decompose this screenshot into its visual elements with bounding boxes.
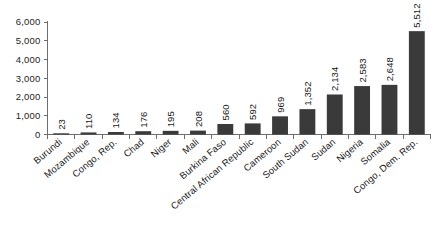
bar: [272, 116, 288, 134]
y-tick-label: 3,000: [16, 73, 41, 84]
bar-value-label: 592: [247, 104, 258, 120]
bar-value-label: 969: [275, 97, 286, 113]
bar: [108, 132, 124, 135]
bar: [217, 124, 233, 135]
bar: [53, 133, 69, 134]
bar: [299, 109, 315, 134]
bar-value-label: 176: [138, 112, 149, 128]
bar-value-label: 110: [83, 113, 94, 128]
bar-value-label: 208: [193, 111, 204, 127]
y-tick-label: 2,000: [16, 91, 41, 102]
y-tick-label: 6,000: [16, 16, 41, 27]
bar: [382, 85, 398, 135]
bar: [409, 31, 425, 134]
chart-canvas: 01,0002,0003,0004,0005,0006,000 23110134…: [0, 0, 441, 237]
bar-value-label: 23: [56, 119, 67, 130]
bar: [245, 123, 261, 134]
bar-value-label: 2,134: [329, 67, 340, 91]
y-tick-label: 1,000: [16, 110, 41, 121]
bar-value-label: 2,648: [384, 57, 395, 81]
bar: [354, 86, 370, 134]
bar: [135, 131, 151, 134]
bar-chart: 01,0002,0003,0004,0005,0006,000 23110134…: [0, 0, 441, 237]
y-tick-label: 5,000: [16, 35, 41, 46]
bar: [190, 131, 206, 135]
bar-value-label: 1,352: [302, 81, 313, 105]
bar-value-label: 5,512: [411, 3, 422, 27]
y-tick-label: 4,000: [16, 54, 41, 65]
bar: [81, 132, 97, 134]
bar: [163, 131, 179, 135]
bar-value-label: 195: [165, 111, 176, 127]
bar-value-label: 134: [110, 112, 121, 128]
bar-value-label: 2,583: [357, 58, 368, 82]
bar: [327, 94, 343, 134]
y-tick-label: 0: [35, 129, 40, 140]
bar-value-label: 560: [220, 104, 231, 120]
